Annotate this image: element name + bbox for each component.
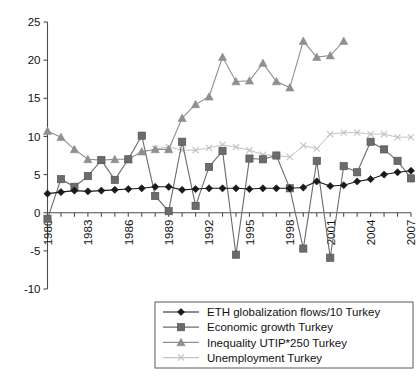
legend-label-3: Unemployment Turkey (207, 352, 322, 364)
data-point-diamond (246, 185, 253, 192)
y-tick-label: 10 (28, 131, 41, 143)
data-point-diamond (273, 185, 280, 192)
data-point-triangle (43, 127, 51, 134)
data-point-square (394, 157, 401, 164)
x-tick-label: 1986 (123, 220, 135, 246)
legend-label-2: Inequality UTIP*250 Turkey (207, 337, 347, 349)
data-point-square (300, 245, 307, 252)
data-point-square (259, 156, 266, 163)
data-point-diamond (300, 184, 307, 191)
y-tick-label: -10 (24, 283, 41, 295)
data-point-diamond (98, 187, 105, 194)
x-tick-label: 1983 (82, 220, 94, 246)
data-point-diamond (407, 167, 414, 174)
y-tick-label: 25 (28, 16, 41, 28)
data-point-square (84, 172, 91, 179)
data-point-square (246, 155, 253, 162)
data-point-square (192, 202, 199, 209)
y-tick-label: 20 (28, 54, 41, 66)
data-point-triangle (286, 84, 294, 91)
y-tick-label: -5 (30, 245, 40, 257)
x-tick-label: 1989 (163, 220, 175, 246)
data-point-square (232, 251, 239, 258)
data-point-diamond (138, 185, 145, 192)
data-point-square (111, 176, 118, 183)
series-3 (152, 130, 414, 161)
data-point-triangle (205, 93, 213, 100)
data-point-triangle (340, 37, 348, 44)
data-point-square (354, 169, 361, 176)
legend-label-0: ETH globalization flows/10 Turkey (207, 306, 380, 318)
line-chart: -10-505101520251980198319861989199219951… (0, 0, 420, 376)
data-point-square (205, 163, 212, 170)
data-point-triangle (259, 59, 267, 66)
x-tick-label: 1980 (42, 220, 54, 246)
x-tick-label: 1992 (203, 220, 215, 246)
data-point-square (327, 254, 334, 261)
data-point-square (313, 157, 320, 164)
data-point-square (138, 132, 145, 139)
y-tick-label: 5 (34, 169, 40, 181)
data-point-square (380, 146, 387, 153)
x-tick-label: 1995 (244, 220, 256, 246)
data-point-diamond (327, 182, 334, 189)
data-point-square (98, 156, 105, 163)
data-point-diamond (380, 171, 387, 178)
data-point-square (179, 138, 186, 145)
data-point-square (57, 176, 64, 183)
data-point-triangle (299, 37, 307, 44)
data-point-diamond (111, 186, 118, 193)
data-point-square (367, 138, 374, 145)
data-point-diamond (165, 183, 172, 190)
data-point-diamond (205, 185, 212, 192)
data-point-square (165, 208, 172, 215)
data-point-square (340, 163, 347, 170)
series-line-1 (48, 136, 412, 258)
chart-container: -10-505101520251980198319861989199219951… (0, 0, 420, 376)
series-1 (44, 132, 415, 261)
data-point-square (44, 215, 51, 222)
data-point-triangle (191, 100, 199, 107)
data-point-square (177, 324, 184, 331)
y-tick-label: 0 (34, 207, 40, 219)
legend: ETH globalization flows/10 TurkeyEconomi… (155, 302, 413, 368)
data-point-diamond (367, 176, 374, 183)
data-point-triangle (57, 133, 65, 140)
x-tick-label: 2007 (405, 220, 417, 246)
x-tick-label: 1998 (284, 220, 296, 246)
data-point-diamond (179, 186, 186, 193)
data-point-diamond (57, 189, 64, 196)
data-point-square (219, 147, 226, 154)
data-point-square (125, 156, 132, 163)
y-tick-label: 15 (28, 92, 41, 104)
data-point-diamond (125, 185, 132, 192)
data-point-diamond (219, 185, 226, 192)
data-point-triangle (218, 53, 226, 60)
data-point-diamond (259, 185, 266, 192)
data-point-square (273, 152, 280, 159)
data-point-diamond (354, 178, 361, 185)
data-point-square (407, 175, 414, 182)
data-point-diamond (232, 185, 239, 192)
data-point-diamond (394, 169, 401, 176)
data-point-square (152, 192, 159, 199)
legend-label-1: Economic growth Turkey (207, 321, 333, 333)
data-point-diamond (44, 190, 51, 197)
data-point-diamond (84, 188, 91, 195)
x-tick-label: 2004 (365, 219, 377, 245)
